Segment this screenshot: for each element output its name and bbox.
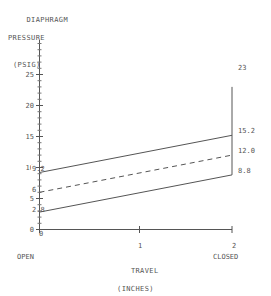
x-axis-title-line-2: (INCHES) [0, 285, 271, 294]
series-line-nominal [40, 155, 233, 192]
series-line-lower-bound [40, 175, 233, 212]
series-line-upper-bound [40, 135, 233, 172]
